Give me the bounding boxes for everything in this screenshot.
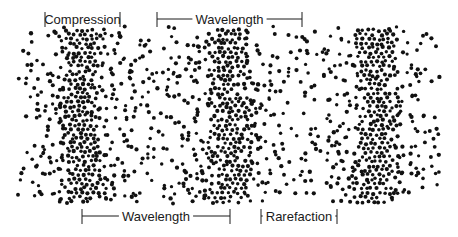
air-particle-dots	[16, 25, 442, 206]
sound-wave-diagram: Compression Wavelength Wavelength Rarefa…	[0, 0, 458, 237]
wavelength-top-label-text: Wavelength	[195, 12, 263, 27]
rarefaction-label: Rarefaction	[261, 209, 337, 225]
compression-label-text: Compression	[44, 12, 121, 27]
rarefaction-label-text: Rarefaction	[266, 209, 332, 224]
wavelength-bottom-label: Wavelength	[82, 209, 230, 225]
compression-label: Compression	[44, 12, 121, 28]
wavelength-bottom-label-text: Wavelength	[122, 209, 190, 224]
wavelength-top-label: Wavelength	[157, 12, 302, 28]
